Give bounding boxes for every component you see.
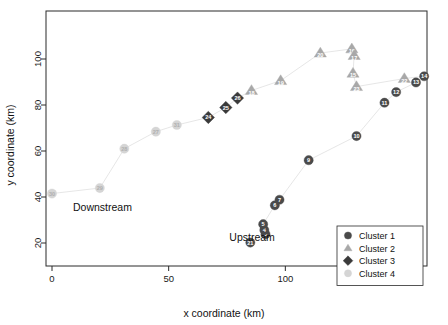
circle-marker — [304, 156, 313, 165]
y-tick-label-100: 100 — [32, 51, 43, 67]
circle-marker — [95, 183, 104, 192]
y-axis-title: y coordinate (km) — [4, 104, 16, 185]
legend-circle-icon — [344, 232, 351, 239]
data-point: 13 — [411, 78, 420, 87]
y-tick-label-20: 20 — [32, 238, 43, 249]
circle-marker — [420, 72, 429, 81]
x-tick-label-50: 50 — [163, 273, 174, 284]
legend-label: Cluster 3 — [359, 256, 395, 266]
data-point: 5 — [259, 220, 268, 229]
data-point: 10 — [352, 131, 361, 140]
circle-marker — [120, 144, 129, 153]
data-point: 29 — [95, 183, 104, 192]
y-tick-label-80: 80 — [32, 100, 43, 111]
data-point: 30 — [47, 189, 56, 198]
circle-marker — [172, 120, 181, 129]
legend-label: Cluster 2 — [359, 244, 395, 254]
circle-marker — [392, 88, 401, 97]
plot-legend: Cluster 1Cluster 2Cluster 3Cluster 4 — [337, 226, 423, 285]
upstream-label: Upstream — [229, 231, 275, 243]
circle-marker — [411, 78, 420, 87]
legend-circle-icon — [344, 270, 351, 277]
data-point: 11 — [380, 98, 389, 107]
data-point: 28 — [120, 144, 129, 153]
data-point: 14 — [420, 72, 429, 81]
legend-label: Cluster 4 — [359, 269, 395, 279]
data-point: 31 — [172, 120, 181, 129]
data-point: 27 — [151, 127, 160, 136]
x-axis-title: x coordinate (km) — [183, 307, 264, 319]
legend-label: Cluster 1 — [359, 231, 395, 241]
circle-marker — [151, 127, 160, 136]
circle-marker — [275, 195, 284, 204]
circle-marker — [352, 131, 361, 140]
x-tick-label-100: 100 — [277, 273, 293, 284]
scatter-plot-figure: 050100150 20406080100 213456791011121314… — [0, 0, 448, 325]
data-point: 9 — [304, 156, 313, 165]
plot-canvas: 050100150 20406080100 213456791011121314… — [0, 0, 448, 325]
y-tick-label-60: 60 — [32, 146, 43, 157]
y-tick-label-40: 40 — [32, 192, 43, 203]
x-tick-label-0: 0 — [49, 273, 54, 284]
circle-marker — [47, 189, 56, 198]
downstream-label: Downstream — [73, 201, 132, 213]
circle-marker — [259, 220, 268, 229]
data-point: 12 — [392, 88, 401, 97]
circle-marker — [380, 98, 389, 107]
data-point: 7 — [275, 195, 284, 204]
